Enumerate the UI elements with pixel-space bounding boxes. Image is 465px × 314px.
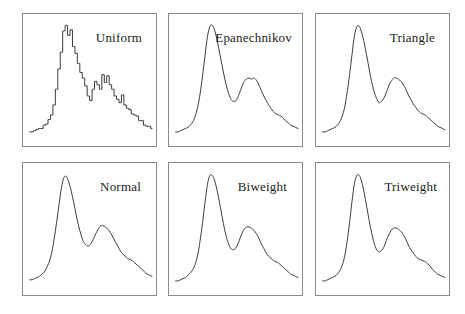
panel-label-epanechnikov: Epanechnikov: [215, 31, 292, 44]
panel-normal: Normal: [22, 162, 157, 296]
panel-label-biweight: Biweight: [238, 180, 287, 193]
kernel-density-figure: UniformEpanechnikovTriangleNormalBiweigh…: [0, 0, 465, 314]
panel-triangle: Triangle: [315, 13, 450, 147]
panel-label-triangle: Triangle: [390, 31, 435, 44]
panel-label-triweight: Triweight: [384, 180, 437, 193]
panel-uniform: Uniform: [22, 13, 157, 147]
panel-label-normal: Normal: [100, 180, 141, 193]
panel-label-uniform: Uniform: [96, 31, 142, 44]
panel-epanechnikov: Epanechnikov: [168, 13, 303, 147]
panel-biweight: Biweight: [168, 162, 303, 296]
panel-triweight: Triweight: [315, 162, 450, 296]
